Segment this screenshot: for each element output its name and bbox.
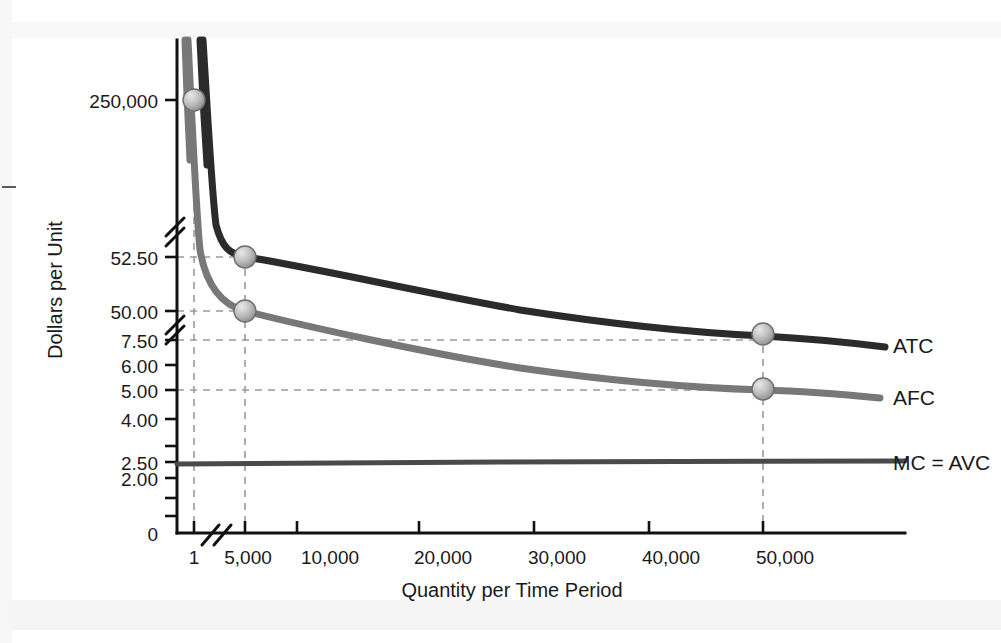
marker-atc-q50000 bbox=[752, 323, 774, 345]
y-tick-label-2-00: 2.00 bbox=[121, 469, 158, 490]
y-break-upper-a bbox=[166, 218, 184, 236]
marker-atc-q5000 bbox=[234, 246, 256, 268]
y-break-upper-b bbox=[166, 228, 184, 246]
x-axis-ticks bbox=[194, 521, 763, 533]
curve-afc bbox=[188, 40, 880, 398]
x-tick-label-1: 1 bbox=[189, 547, 200, 568]
y-tick-label-7-50: 7.50 bbox=[121, 331, 158, 352]
y-tick-label-50-00: 50.00 bbox=[110, 302, 158, 323]
y-tick-label-4-00: 4.00 bbox=[121, 410, 158, 431]
marker-afc-q50000 bbox=[752, 378, 774, 400]
data-point-markers bbox=[183, 89, 774, 400]
x-tick-label-10000: 10,000 bbox=[301, 547, 359, 568]
x-axis-title: Quantity per Time Period bbox=[401, 579, 622, 601]
y-axis-title: Dollars per Unit bbox=[44, 221, 66, 359]
x-tick-label-group: 1 5,000 10,000 20,000 30,000 40,000 50,0… bbox=[189, 547, 814, 568]
curve-label-mc-avc: MC = AVC bbox=[893, 451, 990, 474]
y-tick-label-group: 250,000 52.50 50.00 7.50 6.00 5.00 4.00 … bbox=[89, 91, 158, 545]
curve-mc-avc bbox=[177, 461, 905, 464]
curve-label-afc: AFC bbox=[893, 386, 935, 409]
y-break-lower-a bbox=[166, 316, 184, 334]
curve-atc bbox=[203, 40, 885, 347]
y-tick-label-52-50: 52.50 bbox=[110, 248, 158, 269]
y-axis-ticks bbox=[165, 100, 177, 516]
marker-atc-q1 bbox=[183, 89, 205, 111]
x-tick-label-40000: 40,000 bbox=[642, 547, 700, 568]
cost-curves-chart: 250,000 52.50 50.00 7.50 6.00 5.00 4.00 … bbox=[0, 0, 1001, 643]
x-tick-label-30000: 30,000 bbox=[528, 547, 586, 568]
x-tick-label-5000: 5,000 bbox=[224, 547, 272, 568]
y-tick-label-5-00: 5.00 bbox=[121, 381, 158, 402]
x-tick-label-50000: 50,000 bbox=[756, 547, 814, 568]
y-tick-label-250000: 250,000 bbox=[89, 91, 158, 112]
x-tick-label-20000: 20,000 bbox=[414, 547, 472, 568]
y-axis-break-marks bbox=[166, 218, 184, 344]
y-tick-label-6-00: 6.00 bbox=[121, 356, 158, 377]
curve-label-atc: ATC bbox=[893, 334, 933, 357]
y-tick-label-0: 0 bbox=[147, 524, 158, 545]
x-axis-break-marks bbox=[202, 525, 231, 545]
cost-curves-figure: 250,000 52.50 50.00 7.50 6.00 5.00 4.00 … bbox=[0, 0, 1001, 643]
marker-afc-q5000 bbox=[234, 300, 256, 322]
